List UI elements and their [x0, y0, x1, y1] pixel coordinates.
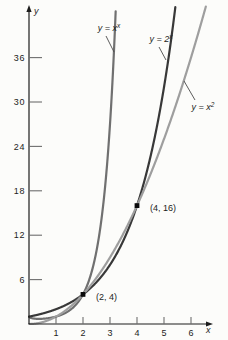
y-tick-label-6: 6: [19, 275, 25, 285]
x-tick-label-2: 2: [80, 328, 85, 338]
x-tick-label-5: 5: [161, 328, 166, 338]
y-tick-label-24: 24: [14, 142, 25, 152]
x-tick-label-4: 4: [134, 328, 139, 338]
point-label-0: (2, 4): [96, 292, 117, 302]
y-tick-label-30: 30: [14, 97, 25, 107]
x-tick-label-6: 6: [188, 328, 193, 338]
x-tick-label-1: 1: [53, 328, 58, 338]
y-axis-label: y: [33, 6, 39, 16]
function-growth-figure: yx61218243036123456y = xxy = 2xy = x2(2,…: [0, 0, 228, 340]
chart-canvas: yx61218243036123456y = xxy = 2xy = x2(2,…: [0, 0, 228, 340]
y-tick-label-36: 36: [14, 53, 25, 63]
point-marker-0: [81, 292, 86, 297]
point-label-1: (4, 16): [150, 203, 176, 213]
x-tick-label-3: 3: [107, 328, 112, 338]
point-marker-1: [135, 203, 140, 208]
y-tick-label-12: 12: [14, 230, 25, 240]
x-axis-label: x: [205, 325, 211, 335]
y-tick-label-18: 18: [14, 186, 25, 196]
